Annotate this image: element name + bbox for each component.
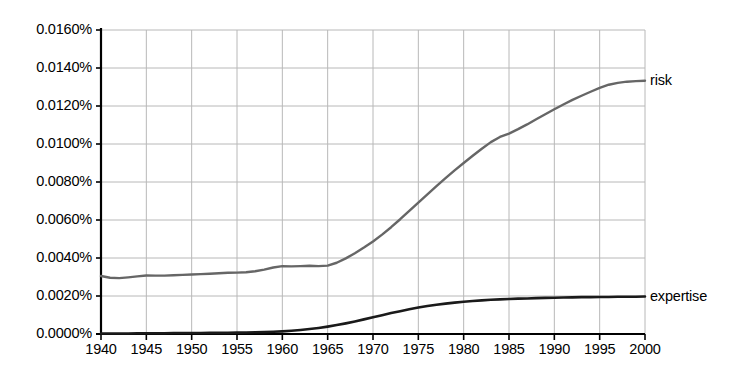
y-tick-label: 0.0000% [4,325,92,341]
axis-ticks [96,30,645,340]
gridlines [101,30,645,334]
y-tick-label: 0.0080% [4,173,92,189]
line-chart: 0.0160%0.0140%0.0120%0.0100%0.0080%0.006… [0,0,738,389]
axis-lines [96,28,645,334]
series-label-expertise: expertise [650,288,707,304]
y-tick-label: 0.0100% [4,135,92,151]
y-tick-label: 0.0060% [4,211,92,227]
y-tick-label: 0.0020% [4,287,92,303]
y-tick-label: 0.0140% [4,59,92,75]
y-tick-label: 0.0160% [4,21,92,37]
x-tick-label: 2000 [618,341,672,357]
y-tick-label: 0.0040% [4,249,92,265]
plot-area [0,0,738,389]
series-label-risk: risk [650,72,672,88]
y-tick-label: 0.0120% [4,97,92,113]
